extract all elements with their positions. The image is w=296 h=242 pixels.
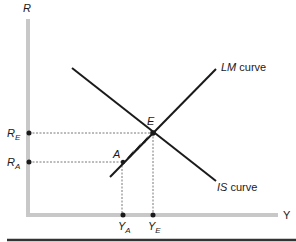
y-axis-label: Y xyxy=(283,209,291,221)
is-curve-label: IS curve xyxy=(217,181,257,193)
lm-label-rest: curve xyxy=(236,61,266,73)
r-e-tick-label: RE xyxy=(7,127,21,142)
r-e-dot xyxy=(27,131,32,136)
y-e-sub: E xyxy=(155,226,161,235)
lm-label-italic: LM xyxy=(221,61,237,73)
point-a xyxy=(121,160,125,164)
r-a-dot xyxy=(27,160,32,165)
is-label-italic: IS xyxy=(217,181,228,193)
y-e-dot xyxy=(151,213,156,218)
y-a-tick-label: YA xyxy=(118,220,131,235)
r-a-sub: A xyxy=(14,162,20,171)
r-a-main: R xyxy=(7,156,15,168)
r-axis-label: R xyxy=(23,2,31,14)
lm-curve xyxy=(110,69,216,177)
y-a-dot xyxy=(121,213,126,218)
point-e xyxy=(150,130,156,136)
lm-curve-label: LM curve xyxy=(221,61,266,73)
y-e-tick-label: YE xyxy=(148,220,161,235)
r-e-main: R xyxy=(7,127,15,139)
is-label-rest: curve xyxy=(227,181,257,193)
point-a-label: A xyxy=(112,148,120,160)
point-e-label: E xyxy=(147,115,155,127)
is-lm-diagram: R Y E A LM curve IS curve RE RA YA YE xyxy=(0,0,296,242)
movement-arrows xyxy=(127,136,148,158)
y-a-sub: A xyxy=(124,226,130,235)
r-e-sub: E xyxy=(15,133,21,142)
is-curve xyxy=(72,68,216,181)
r-a-tick-label: RA xyxy=(7,156,20,171)
